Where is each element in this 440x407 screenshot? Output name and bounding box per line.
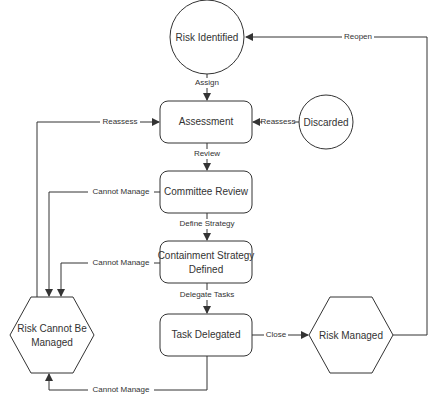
svg-text:Discarded: Discarded: [303, 117, 348, 128]
svg-text:Defined: Defined: [189, 264, 223, 275]
edge-label-reopen: Reopen: [344, 32, 372, 41]
edge-label-reassess-cannot: Reassess: [102, 117, 137, 126]
node-risk-managed[interactable]: Risk Managed: [309, 297, 393, 373]
flowchart-canvas: Assign Review Define Strategy Delegate T…: [0, 0, 440, 407]
edge-label-cannot-manage-committee: Cannot Manage: [93, 187, 150, 196]
edge-cannot-manage-committee: Cannot Manage: [49, 187, 160, 296]
edge-label-cannot-manage-containment: Cannot Manage: [93, 258, 150, 267]
edge-cannot-manage-containment: Cannot Manage: [61, 258, 160, 296]
svg-text:Risk Managed: Risk Managed: [319, 330, 383, 341]
edge-delegate-tasks: Delegate Tasks: [176, 283, 238, 313]
svg-text:Risk Cannot Be: Risk Cannot Be: [17, 323, 87, 334]
edge-reassess-cannot: Reassess: [37, 117, 159, 297]
svg-text:Managed: Managed: [31, 337, 73, 348]
node-task-delegated[interactable]: Task Delegated: [160, 314, 252, 356]
node-discarded[interactable]: Discarded: [299, 95, 353, 149]
edge-label-review: Review: [194, 149, 220, 158]
svg-text:Risk Identified: Risk Identified: [176, 32, 239, 43]
node-risk-identified[interactable]: Risk Identified: [170, 0, 244, 74]
edge-close: Close: [252, 330, 308, 340]
edge-label-reassess-discarded: Reassess: [260, 117, 295, 126]
edge-label-close: Close: [266, 330, 287, 339]
edge-assign: Assign: [193, 73, 221, 100]
node-containment-strategy-defined[interactable]: Containment Strategy Defined: [158, 241, 255, 283]
edge-label-assign: Assign: [195, 78, 219, 87]
edge-reassess-discarded: Reassess: [253, 117, 299, 127]
edge-define-strategy: Define Strategy: [176, 213, 238, 240]
edge-label-define-strategy: Define Strategy: [179, 219, 234, 228]
svg-text:Committee Review: Committee Review: [164, 186, 249, 197]
node-assessment[interactable]: Assessment: [160, 101, 252, 143]
edge-review: Review: [191, 143, 223, 170]
node-risk-cannot-be-managed[interactable]: Risk Cannot Be Managed: [10, 297, 94, 373]
edge-label-delegate-tasks: Delegate Tasks: [180, 290, 235, 299]
svg-text:Containment Strategy: Containment Strategy: [158, 250, 255, 261]
svg-text:Task Delegated: Task Delegated: [172, 329, 241, 340]
edge-label-cannot-manage-task: Cannot Manage: [93, 385, 150, 394]
edge-reopen: Reopen: [246, 32, 427, 335]
node-committee-review[interactable]: Committee Review: [160, 171, 252, 213]
svg-text:Assessment: Assessment: [179, 116, 234, 127]
